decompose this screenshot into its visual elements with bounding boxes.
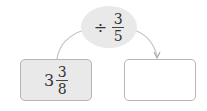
arc-right bbox=[134, 30, 157, 56]
whole-number: 3 bbox=[44, 71, 54, 90]
input-fraction: 3 8 bbox=[56, 65, 68, 96]
denominator: 8 bbox=[58, 82, 67, 96]
numerator: 3 bbox=[58, 65, 67, 79]
numerator: 3 bbox=[114, 12, 123, 26]
divide-sign: ÷ bbox=[94, 18, 107, 37]
operator-bubble: ÷ 3 5 bbox=[81, 6, 137, 48]
input-box: 3 3 8 bbox=[20, 59, 92, 101]
answer-box[interactable] bbox=[124, 59, 196, 101]
denominator: 5 bbox=[114, 29, 123, 43]
operator-fraction: 3 5 bbox=[112, 12, 124, 43]
arc-left bbox=[57, 30, 84, 59]
